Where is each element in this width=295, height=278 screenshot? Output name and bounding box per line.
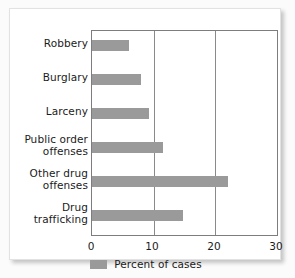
- category-label-larceny: Larceny: [10, 106, 88, 118]
- category-label-line: Larceny: [10, 106, 88, 118]
- legend-swatch-icon: [90, 260, 107, 269]
- bar-robbery: [92, 40, 129, 51]
- bar-public-order-offenses: [92, 142, 163, 153]
- category-label-line: trafficking: [10, 214, 88, 226]
- category-label-line: offenses: [10, 146, 88, 158]
- gridline-20: [215, 31, 216, 235]
- legend-label: Percent of cases: [114, 258, 202, 270]
- legend: Percent of cases: [10, 258, 282, 270]
- category-axis-labels: Robbery Burglary Larceny Public order of…: [10, 30, 88, 236]
- category-label-line: Drug: [10, 202, 88, 214]
- gridline-10: [154, 31, 155, 235]
- x-tick-10: 10: [145, 240, 158, 252]
- x-tick-20: 20: [207, 240, 220, 252]
- category-label-line: offenses: [10, 180, 88, 192]
- plot-area: [91, 30, 278, 236]
- category-label-line: Burglary: [10, 72, 88, 84]
- category-label-line: Other drug: [10, 168, 88, 180]
- bar-larceny: [92, 108, 149, 119]
- category-label-burglary: Burglary: [10, 72, 88, 84]
- category-label-line: Public order: [10, 134, 88, 146]
- bar-burglary: [92, 74, 141, 85]
- x-tick-0: 0: [88, 240, 95, 252]
- category-label-line: Robbery: [10, 38, 88, 50]
- bar-other-drug-offenses: [92, 176, 228, 187]
- category-label-drug-trafficking: Drug trafficking: [10, 202, 88, 225]
- figure-root: Robbery Burglary Larceny Public order of…: [0, 0, 295, 278]
- chart-card: Robbery Burglary Larceny Public order of…: [9, 8, 281, 260]
- category-label-public-order-offenses: Public order offenses: [10, 134, 88, 157]
- x-tick-30: 30: [269, 240, 282, 252]
- bar-drug-trafficking: [92, 210, 183, 221]
- category-label-other-drug-offenses: Other drug offenses: [10, 168, 88, 191]
- category-label-robbery: Robbery: [10, 38, 88, 50]
